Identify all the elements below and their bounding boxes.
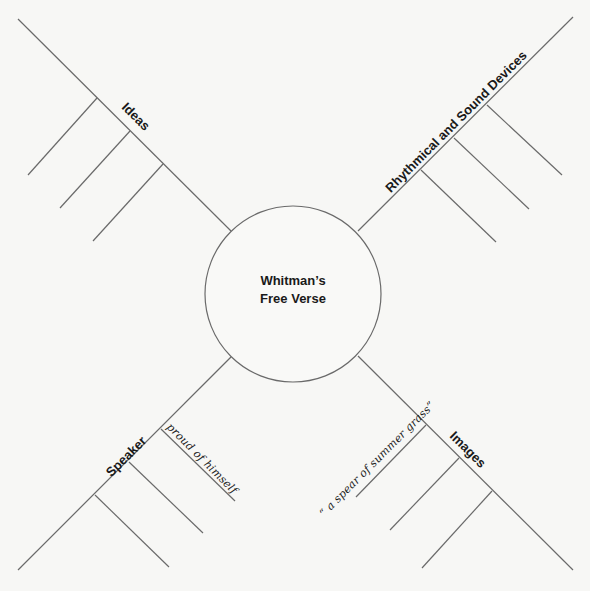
arm-rhythmical-branch-2 bbox=[454, 138, 529, 209]
arm-ideas-branch-2 bbox=[60, 131, 130, 208]
arm-rhythmical bbox=[358, 17, 573, 242]
arm-images-branch-3 bbox=[422, 491, 492, 568]
center-topic: Whitman’s Free Verse bbox=[205, 272, 381, 308]
arm-rhythmical-main-line bbox=[358, 17, 573, 231]
arm-speaker-branch-2 bbox=[129, 462, 203, 533]
arm-ideas-branch-3 bbox=[93, 164, 163, 241]
arm-images bbox=[356, 356, 573, 570]
arm-images-main-line bbox=[358, 356, 573, 570]
arm-ideas-branch-1 bbox=[28, 98, 97, 175]
center-topic-line-1: Whitman’s bbox=[205, 272, 381, 290]
arm-ideas bbox=[18, 19, 231, 241]
arm-rhythmical-branch-1 bbox=[487, 105, 562, 175]
arm-ideas-main-line bbox=[18, 19, 231, 231]
arm-rhythmical-branch-3 bbox=[421, 170, 496, 242]
arm-speaker-branch-3 bbox=[95, 495, 169, 567]
center-topic-line-2: Free Verse bbox=[205, 290, 381, 308]
arm-images-branch-2 bbox=[390, 458, 459, 530]
